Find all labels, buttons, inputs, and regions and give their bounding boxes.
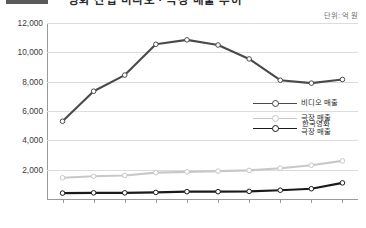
chart-legend: 비디오 매출극장 매출한국영화극장 매출 xyxy=(253,97,361,146)
data-point-marker xyxy=(154,170,159,175)
legend-swatch xyxy=(253,123,297,133)
legend-label-line2: 극장 매출 xyxy=(301,128,331,136)
data-point-marker xyxy=(340,181,345,186)
data-point-marker xyxy=(216,43,221,48)
data-point-marker xyxy=(247,168,252,173)
title-swatch xyxy=(6,0,48,4)
y-tick-label: 8,000 xyxy=(1,77,43,87)
legend-item[interactable]: 한국영화극장 매출 xyxy=(253,122,331,134)
data-point-marker xyxy=(340,159,345,164)
page-title: 영화 산업 비디오 · 극장 매출 추이 xyxy=(68,0,242,7)
data-point-marker xyxy=(216,189,221,194)
data-point-marker xyxy=(309,186,314,191)
data-point-marker xyxy=(91,191,96,196)
x-tick-label: 1999 xyxy=(322,226,362,228)
data-point-marker xyxy=(278,78,283,83)
legend-swatch xyxy=(253,98,297,108)
legend-label: 한국영화극장 매출 xyxy=(301,120,331,136)
data-point-marker xyxy=(340,77,345,82)
y-tick-label: 2,000 xyxy=(1,165,43,175)
data-point-marker xyxy=(216,169,221,174)
data-point-marker xyxy=(60,119,65,124)
data-point-marker xyxy=(91,174,96,179)
data-point-marker xyxy=(154,42,159,47)
chart-root: 영화 산업 비디오 · 극장 매출 추이 단위: 억 원 2,0004,0006… xyxy=(0,0,366,228)
chart-title-strip: 영화 산업 비디오 · 극장 매출 추이 xyxy=(0,0,366,9)
data-point-marker xyxy=(60,175,65,180)
data-point-marker xyxy=(91,89,96,94)
data-point-marker xyxy=(247,189,252,194)
data-point-marker xyxy=(154,190,159,195)
y-tick-label: 4,000 xyxy=(1,135,43,145)
data-point-marker xyxy=(278,188,283,193)
unit-label: 단위: 억 원 xyxy=(324,10,358,20)
data-point-marker xyxy=(122,191,127,196)
data-point-marker xyxy=(309,163,314,168)
y-tick-label: 12,000 xyxy=(1,18,43,28)
legend-label: 비디오 매출 xyxy=(301,99,338,108)
data-point-marker xyxy=(278,166,283,171)
data-point-marker xyxy=(247,57,252,62)
data-point-marker xyxy=(185,38,190,43)
data-point-marker xyxy=(185,170,190,175)
data-point-marker xyxy=(60,191,65,196)
series-line xyxy=(63,161,343,178)
data-point-marker xyxy=(122,73,127,78)
legend-item[interactable]: 비디오 매출 xyxy=(253,97,338,109)
y-tick-label: 10,000 xyxy=(1,47,43,57)
series-line xyxy=(63,183,343,193)
data-point-marker xyxy=(185,189,190,194)
data-point-marker xyxy=(122,173,127,178)
y-tick-label: 6,000 xyxy=(1,106,43,116)
data-point-marker xyxy=(309,81,314,86)
